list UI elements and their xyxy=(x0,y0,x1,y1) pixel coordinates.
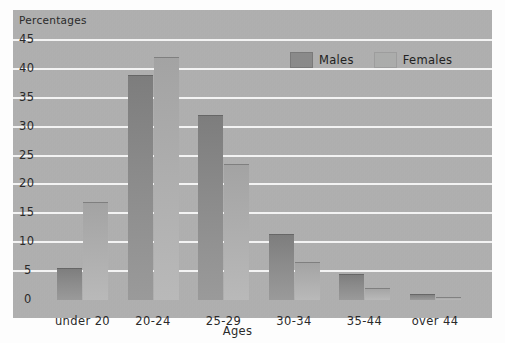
page-header-ghost: ____ ___ xyxy=(460,0,499,2)
bar-under-20-males xyxy=(57,268,82,300)
y-tick-label: 40 xyxy=(19,63,34,75)
bar-cap xyxy=(57,268,82,269)
legend-swatch-females-icon xyxy=(374,52,397,68)
gridline xyxy=(13,126,492,128)
bar-over-44-females xyxy=(436,297,461,300)
legend-label-females: Females xyxy=(403,53,453,67)
bar-cap xyxy=(198,115,223,116)
y-tick-label: 35 xyxy=(19,92,34,104)
bar-cap xyxy=(410,294,435,295)
legend-item-males[interactable]: Males xyxy=(290,52,354,68)
legend-item-females[interactable]: Females xyxy=(374,52,453,68)
y-tick-label: 0 xyxy=(24,294,32,306)
bar-cap xyxy=(269,234,294,235)
bar-20-24-males xyxy=(128,75,153,300)
legend-swatch-males-icon xyxy=(290,52,313,68)
y-tick-label: 5 xyxy=(24,265,32,277)
y-axis-title: Percentages xyxy=(19,14,87,26)
x-axis-title-text: Ages xyxy=(223,324,252,338)
bar-35-44-females xyxy=(365,288,390,300)
bar-under-20-females xyxy=(83,202,108,300)
gridline xyxy=(13,183,492,185)
y-tick-label: 10 xyxy=(19,236,34,248)
bar-cap xyxy=(365,288,390,289)
chart-legend: Males Females xyxy=(290,52,464,68)
bar-30-34-males xyxy=(269,234,294,300)
bar-cap xyxy=(295,262,320,263)
bar-cap xyxy=(436,297,461,298)
legend-label-males: Males xyxy=(319,53,354,67)
y-tick-label: 15 xyxy=(19,208,34,220)
y-tick-label: 20 xyxy=(19,179,34,191)
x-axis-title: Ages xyxy=(0,324,505,338)
bar-cap xyxy=(154,57,179,58)
bar-25-29-females xyxy=(224,164,249,300)
chart-page: ____ ___ Percentages 051015202530354045 … xyxy=(0,0,505,343)
bar-cap xyxy=(339,274,364,275)
bar-35-44-males xyxy=(339,274,364,300)
bar-cap xyxy=(224,164,249,165)
y-tick-label: 45 xyxy=(19,34,34,46)
bar-20-24-females xyxy=(154,57,179,300)
bar-cap xyxy=(83,202,108,203)
bar-cap xyxy=(128,75,153,76)
bar-over-44-males xyxy=(410,294,435,300)
gridline xyxy=(13,39,492,41)
gridline xyxy=(13,97,492,99)
bar-25-29-males xyxy=(198,115,223,300)
bar-30-34-females xyxy=(295,262,320,300)
gridline xyxy=(13,68,492,70)
y-tick-label: 30 xyxy=(19,121,34,133)
gridline xyxy=(13,155,492,157)
y-tick-label: 25 xyxy=(19,150,34,162)
